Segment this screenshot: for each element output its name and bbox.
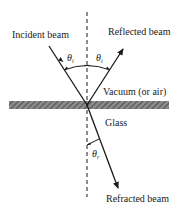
theta-i-left-label: θi [67,52,74,64]
glass-label: Glass [105,117,127,128]
reflected-beam-label: Reflected beam [108,26,171,37]
vacuum-label: Vacuum (or air) [103,86,166,98]
refracted-beam-label: Refracted beam [106,193,169,204]
incident-beam-label: Incident beam [12,29,69,40]
theta-i-right-label: θi [96,52,103,64]
refraction-diagram: Incident beam Reflected beam Vacuum (or … [0,0,183,214]
theta-r-label: θr [92,148,100,160]
diagram-canvas: Incident beam Reflected beam Vacuum (or … [0,0,183,214]
